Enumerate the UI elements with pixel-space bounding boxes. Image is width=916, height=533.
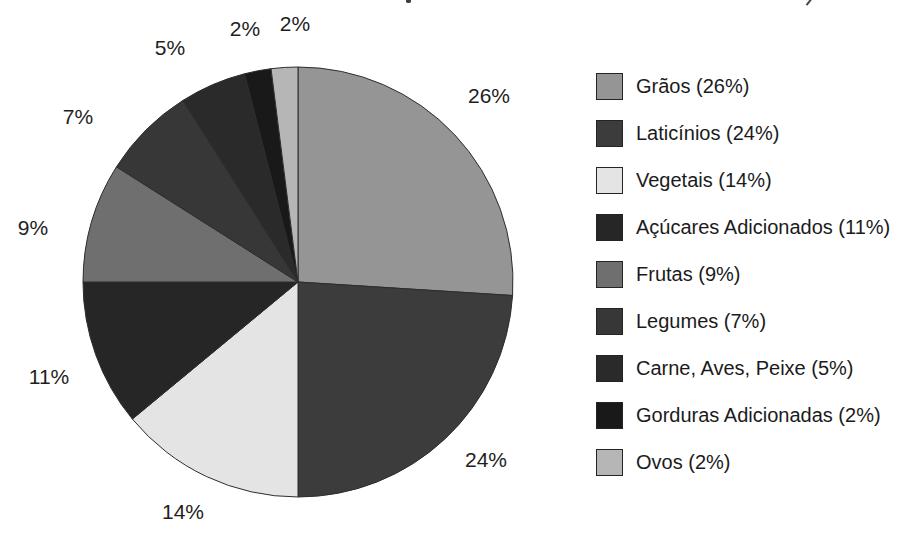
legend-item-gorduras-adicionadas: Gorduras Adicionadas (2%)	[596, 402, 881, 429]
legend-swatch	[596, 308, 623, 335]
legend-label: Legumes (7%)	[636, 310, 766, 333]
legend-label: Gorduras Adicionadas (2%)	[636, 404, 881, 427]
legend-swatch	[596, 167, 623, 194]
legend-swatch	[596, 120, 623, 147]
legend-swatch	[596, 214, 623, 241]
legend-swatch	[596, 261, 623, 288]
pie-percent-label-graos: 26%	[468, 84, 510, 108]
pie-percent-label-vegetais: 14%	[162, 500, 204, 524]
legend-swatch	[596, 449, 623, 476]
legend-label: Frutas (9%)	[636, 263, 740, 286]
legend-label: Grãos (26%)	[636, 75, 749, 98]
legend: Grãos (26%)Laticínios (24%)Vegetais (14%…	[596, 73, 916, 483]
pie-chart-figure: 26%24%14%11%9%7%5%2%2% Grãos (26%)Laticí…	[0, 0, 916, 533]
legend-label: Açúcares Adicionados (11%)	[636, 216, 890, 239]
legend-swatch	[596, 402, 623, 429]
pie-percent-label-ovos: 2%	[280, 12, 310, 36]
legend-label: Carne, Aves, Peixe (5%)	[636, 357, 854, 380]
legend-item-vegetais: Vegetais (14%)	[596, 167, 772, 194]
legend-item-ovos: Ovos (2%)	[596, 449, 730, 476]
legend-item-acucares-adicionados: Açúcares Adicionados (11%)	[596, 214, 890, 241]
legend-item-frutas: Frutas (9%)	[596, 261, 740, 288]
pie-percent-label-acucares-adicionados: 11%	[29, 365, 69, 389]
pie-percent-label-frutas: 9%	[18, 216, 48, 240]
pie-percent-label-gorduras-adicionadas: 2%	[230, 17, 260, 41]
legend-label: Ovos (2%)	[636, 451, 730, 474]
pie-percent-label-carne-aves-peixe: 5%	[155, 36, 185, 60]
legend-label: Vegetais (14%)	[636, 169, 772, 192]
pie-percent-label-legumes: 7%	[63, 105, 93, 129]
legend-swatch	[596, 355, 623, 382]
pie-percent-label-laticinios: 24%	[465, 448, 507, 472]
legend-item-laticinios: Laticínios (24%)	[596, 120, 779, 147]
legend-swatch	[596, 73, 623, 100]
legend-item-legumes: Legumes (7%)	[596, 308, 766, 335]
legend-item-carne-aves-peixe: Carne, Aves, Peixe (5%)	[596, 355, 854, 382]
legend-label: Laticínios (24%)	[636, 122, 779, 145]
legend-item-graos: Grãos (26%)	[596, 73, 749, 100]
